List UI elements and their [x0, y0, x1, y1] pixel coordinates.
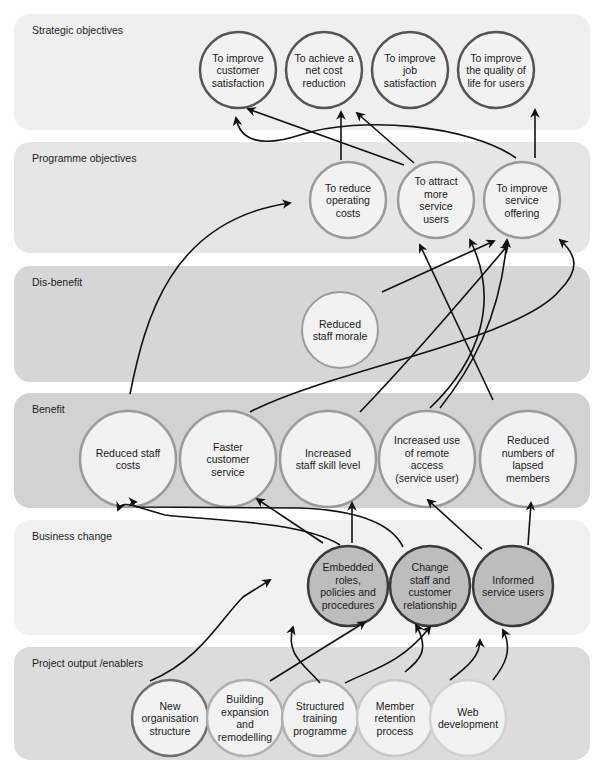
diagram-canvas: Strategic objectivesProgramme objectives…: [0, 0, 604, 772]
benefits-map-diagram: Strategic objectivesProgramme objectives…: [0, 0, 604, 772]
node-label-line: To improve: [470, 52, 522, 64]
node-b5: Reducednumbers oflapsedmembers: [480, 411, 576, 507]
node-label-line: Member: [376, 700, 415, 712]
node-c3: Informedservice users: [473, 546, 553, 626]
node-label-line: service: [211, 466, 244, 478]
node-label-line: satisfaction: [212, 77, 265, 89]
node-label-line: policies and: [320, 586, 376, 598]
node-label-line: offering: [505, 207, 540, 219]
node-label-line: Reduced: [507, 434, 549, 446]
node-label-line: expansion: [221, 706, 269, 718]
node-label-line: numbers of: [502, 447, 555, 459]
node-label-line: staff and: [410, 574, 450, 586]
node-s3: To improvejobsatisfaction: [372, 32, 448, 108]
node-label-line: Reduced: [319, 318, 361, 330]
node-c1: Embeddedroles,policies andprocedures: [308, 546, 388, 626]
band-label: Benefit: [32, 403, 65, 415]
node-label-line: To improve: [496, 182, 548, 194]
node-label-line: structure: [150, 725, 191, 737]
band-layer: Strategic objectivesProgramme objectives…: [14, 14, 590, 760]
node-label-line: of remote: [405, 447, 450, 459]
node-label-line: To achieve a: [295, 52, 354, 64]
node-label-line: more: [424, 188, 448, 200]
node-label-line: To improve: [384, 52, 436, 64]
node-label-line: retention: [375, 712, 416, 724]
node-label-line: Reduced staff: [96, 447, 161, 459]
node-label-line: relationship: [403, 599, 457, 611]
node-label-line: Increased: [305, 447, 351, 459]
node-e1: Neworganisationstructure: [132, 680, 208, 756]
node-label-line: staff morale: [313, 330, 368, 342]
node-label-line: training: [303, 712, 338, 724]
node-e3: Structuredtrainingprogramme: [282, 680, 358, 756]
node-label-line: To attract: [414, 175, 457, 187]
node-label-line: reduction: [302, 77, 345, 89]
band-label: Strategic objectives: [32, 24, 123, 36]
node-label-line: access: [411, 459, 444, 471]
node-label-line: costs: [116, 459, 141, 471]
node-e4: Memberretentionprocess: [357, 680, 433, 756]
band-label: Dis-benefit: [32, 276, 82, 288]
node-label-line: lapsed: [513, 459, 544, 471]
node-b4: Increased useof remoteaccess(service use…: [379, 411, 475, 507]
node-label-line: Embedded: [323, 561, 374, 573]
node-label-line: members: [506, 472, 550, 484]
node-label-line: Structured: [296, 700, 345, 712]
node-label-line: net cost: [306, 64, 343, 76]
node-label-line: procedures: [322, 599, 375, 611]
node-label-line: (service user): [395, 472, 459, 484]
node-e5: Webdevelopment: [430, 680, 506, 756]
node-p3: To improveserviceoffering: [484, 162, 560, 238]
node-p1: To reduceoperatingcosts: [310, 162, 386, 238]
node-label-line: To improve: [212, 52, 264, 64]
band-label: Programme objectives: [32, 152, 136, 164]
node-b1: Reduced staffcosts: [80, 411, 176, 507]
node-s2: To achieve anet costreduction: [286, 32, 362, 108]
node-label-line: staff skill level: [296, 459, 361, 471]
node-label-line: To reduce: [325, 182, 371, 194]
node-label-line: service: [419, 200, 452, 212]
node-label-line: job: [402, 64, 417, 76]
node-label-line: service: [505, 194, 538, 206]
node-label-line: organisation: [141, 712, 198, 724]
node-s4: To improvethe quality oflife for users: [458, 32, 534, 108]
node-label-line: Building: [226, 693, 264, 705]
node-label-line: remodelling: [218, 731, 272, 743]
node-label-line: Faster: [213, 441, 243, 453]
node-label-line: process: [377, 725, 414, 737]
node-label-line: development: [438, 718, 498, 730]
node-label-line: and: [236, 718, 254, 730]
node-label-line: costs: [336, 207, 361, 219]
node-e2: Buildingexpansionandremodelling: [207, 680, 283, 756]
node-label-line: operating: [326, 194, 370, 206]
node-label-line: Change: [412, 561, 449, 573]
node-label-line: Increased use: [394, 434, 460, 446]
node-label-line: customer: [206, 453, 250, 465]
band-label: Project output /enablers: [32, 657, 143, 669]
node-label-line: the quality of: [466, 64, 526, 76]
node-p2: To attractmoreserviceusers: [398, 162, 474, 238]
node-b3: Increasedstaff skill level: [280, 411, 376, 507]
node-label-line: users: [423, 213, 449, 225]
node-c2: Changestaff andcustomerrelationship: [390, 546, 470, 626]
node-label-line: customer: [216, 64, 260, 76]
node-label-line: programme: [293, 725, 347, 737]
node-label-line: customer: [408, 586, 452, 598]
node-s1: To improvecustomersatisfaction: [200, 32, 276, 108]
node-label-line: New: [159, 700, 180, 712]
node-label-line: life for users: [467, 77, 524, 89]
node-label-line: Informed: [492, 574, 534, 586]
node-b2: Fastercustomerservice: [180, 411, 276, 507]
node-label-line: roles,: [335, 574, 361, 586]
band-label: Business change: [32, 530, 112, 542]
node-label-line: service users: [482, 586, 544, 598]
node-label-line: satisfaction: [384, 77, 437, 89]
node-label-line: Web: [457, 706, 479, 718]
node-d1: Reducedstaff morale: [302, 292, 378, 368]
